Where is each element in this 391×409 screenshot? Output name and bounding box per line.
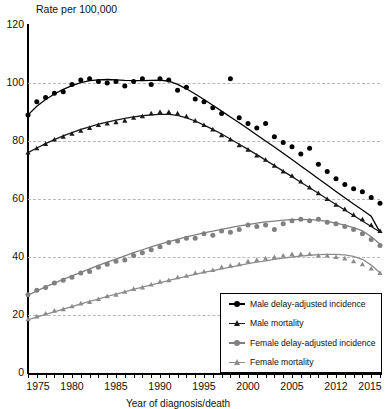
x-tick xyxy=(37,373,38,378)
data-point xyxy=(334,221,339,226)
data-point xyxy=(246,223,251,228)
data-point xyxy=(166,78,171,83)
x-tick xyxy=(81,373,82,378)
data-point xyxy=(52,281,57,286)
circle-marker-icon xyxy=(229,299,245,308)
data-point xyxy=(351,259,356,264)
x-tick-label: 1995 xyxy=(192,380,215,392)
data-point xyxy=(342,256,347,261)
data-point xyxy=(78,78,83,83)
y-tick-label: 60 xyxy=(0,192,24,204)
y-tick-label: 120 xyxy=(0,18,24,30)
circle-marker-icon xyxy=(229,338,245,347)
x-tick xyxy=(310,373,311,378)
legend-item-0[interactable]: Male delay-adjusted incidence xyxy=(221,294,381,314)
data-point xyxy=(360,189,365,194)
data-point xyxy=(78,270,83,275)
data-point xyxy=(272,134,277,139)
data-point xyxy=(140,76,145,81)
data-point xyxy=(158,244,163,249)
legend-item-1[interactable]: Male mortality xyxy=(221,314,381,334)
data-point xyxy=(298,217,303,222)
data-point xyxy=(184,236,189,241)
data-point xyxy=(96,265,101,270)
data-point xyxy=(140,250,145,255)
x-tick xyxy=(283,373,284,378)
data-point xyxy=(219,111,224,116)
data-point xyxy=(70,275,75,280)
data-point xyxy=(360,217,365,222)
data-point xyxy=(281,221,286,226)
data-point xyxy=(307,146,312,151)
data-point xyxy=(281,253,286,258)
x-tick xyxy=(54,373,55,378)
y-tick-label: 0 xyxy=(0,366,24,378)
data-point xyxy=(219,228,224,233)
data-point xyxy=(193,270,198,275)
x-tick xyxy=(98,373,99,378)
legend-item-2[interactable]: Female delay-adjusted incidence xyxy=(221,333,381,353)
data-point xyxy=(131,79,136,84)
data-point xyxy=(316,191,321,196)
x-tick xyxy=(204,373,205,378)
legend-label: Female delay-adjusted incidence xyxy=(250,338,376,348)
data-point xyxy=(166,109,171,114)
data-point xyxy=(157,109,162,114)
chart-legend: Male delay-adjusted incidenceMale mortal… xyxy=(220,293,382,373)
data-point xyxy=(246,121,251,126)
data-point xyxy=(193,96,198,101)
data-point xyxy=(351,186,356,191)
data-point xyxy=(166,240,171,245)
legend-label: Male mortality xyxy=(250,318,303,328)
x-tick xyxy=(371,373,372,378)
data-point xyxy=(210,233,215,238)
data-point xyxy=(342,182,347,187)
data-point xyxy=(26,112,31,117)
x-tick xyxy=(72,373,73,378)
data-point xyxy=(175,88,180,93)
x-tick xyxy=(248,373,249,378)
data-point xyxy=(237,262,242,267)
x-tick xyxy=(134,373,135,378)
data-point xyxy=(43,95,48,100)
x-tick xyxy=(354,373,355,378)
y-tick-label: 80 xyxy=(0,134,24,146)
data-point xyxy=(157,279,162,284)
data-point xyxy=(290,144,295,149)
x-tick-label: 1985 xyxy=(104,380,127,392)
x-tick xyxy=(160,373,161,378)
data-point xyxy=(272,227,277,232)
x-tick-label: 1990 xyxy=(148,380,171,392)
data-point xyxy=(263,223,268,228)
data-point xyxy=(149,247,154,252)
y-tick-label: 40 xyxy=(0,250,24,262)
data-point xyxy=(228,263,233,268)
x-tick xyxy=(318,373,319,378)
data-point xyxy=(202,231,207,236)
data-point xyxy=(175,111,180,116)
data-point xyxy=(263,256,268,261)
legend-item-3[interactable]: Female mortality xyxy=(221,353,381,373)
data-point xyxy=(237,115,242,120)
data-point xyxy=(201,269,206,274)
data-point xyxy=(228,230,233,235)
data-point xyxy=(263,121,268,126)
data-point xyxy=(254,257,259,262)
x-tick-label: 2012 xyxy=(324,380,347,392)
triangle-marker-icon xyxy=(229,319,245,328)
x-tick-label: 1975 xyxy=(26,380,49,392)
legend-label: Male delay-adjusted incidence xyxy=(250,299,366,309)
data-point xyxy=(43,285,48,290)
data-point xyxy=(281,140,286,145)
data-point xyxy=(105,262,110,267)
data-point xyxy=(122,83,127,88)
data-point xyxy=(325,220,330,225)
data-point xyxy=(131,253,136,258)
x-tick xyxy=(213,373,214,378)
data-point xyxy=(175,275,180,280)
data-point xyxy=(43,141,48,146)
data-point xyxy=(325,253,330,258)
x-tick xyxy=(195,373,196,378)
data-point xyxy=(307,218,312,223)
data-point xyxy=(378,243,383,248)
